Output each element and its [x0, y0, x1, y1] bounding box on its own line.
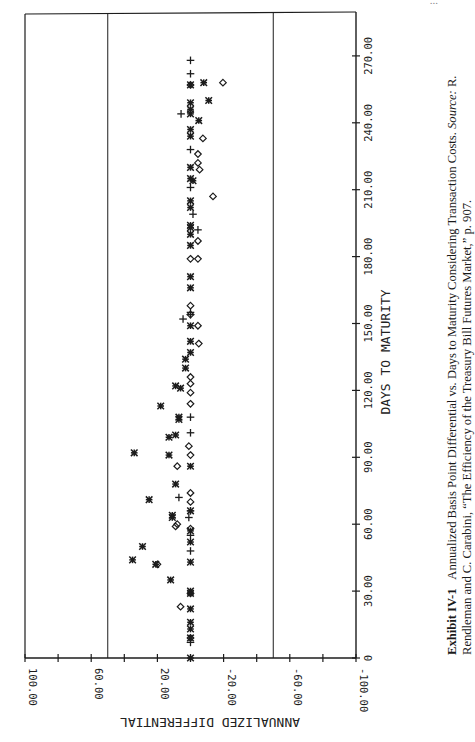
diamond-marker	[187, 400, 194, 407]
asterisk-marker	[187, 273, 194, 280]
diamond-marker	[195, 160, 202, 167]
asterisk-marker	[187, 175, 194, 182]
differential-tick-label: 60.00	[93, 668, 105, 700]
diamond-marker	[195, 256, 202, 263]
diamond-marker	[210, 193, 217, 200]
differential-tick-label: -60.00	[292, 668, 304, 706]
days-tick-label: 270.00	[362, 37, 374, 75]
asterisk-marker	[187, 626, 194, 633]
asterisk-marker	[139, 543, 146, 550]
asterisk-marker	[157, 403, 164, 410]
asterisk-marker	[182, 356, 189, 363]
plus-marker	[185, 514, 193, 522]
plus-marker	[189, 210, 197, 218]
plus-marker	[187, 429, 195, 437]
asterisk-marker	[187, 198, 194, 205]
days-tick-label: 120.00	[362, 371, 374, 409]
asterisk-marker	[187, 99, 194, 106]
asterisk-marker	[187, 126, 194, 133]
asterisk-marker	[187, 164, 194, 171]
diamond-marker	[195, 322, 202, 329]
asterisk-marker	[166, 452, 173, 459]
asterisk-marker	[187, 82, 194, 89]
diamond-marker	[200, 135, 207, 142]
diamond-marker	[187, 452, 194, 459]
asterisk-marker	[187, 559, 194, 566]
diamond-marker	[186, 443, 193, 450]
asterisk-marker	[166, 434, 173, 441]
days-tick-label: 30.00	[362, 575, 374, 607]
asterisk-marker	[187, 204, 194, 211]
asterisk-marker	[187, 349, 194, 356]
plus-marker	[175, 494, 183, 502]
plus-marker	[179, 315, 187, 323]
asterisk-marker	[167, 577, 174, 584]
asterisk-marker	[205, 97, 212, 104]
asterisk-marker	[200, 79, 207, 86]
asterisk-marker	[187, 322, 194, 329]
days-tick-label: 0	[362, 655, 374, 661]
asterisk-marker	[195, 117, 202, 124]
asterisk-marker	[187, 242, 194, 249]
plus-marker	[187, 146, 195, 154]
asterisk-marker	[187, 285, 194, 292]
plus-marker	[187, 70, 195, 78]
diamond-marker	[196, 166, 203, 173]
differential-axis: 100.0060.0020.00-20.00-60.00-100.00	[25, 654, 370, 712]
asterisk-marker	[131, 450, 138, 457]
frame-top	[25, 12, 356, 14]
asterisk-marker	[187, 231, 194, 238]
asterisk-marker	[187, 222, 194, 229]
diamond-marker	[187, 302, 194, 309]
diamond-marker	[195, 151, 202, 158]
asterisk-marker	[187, 655, 194, 662]
asterisk-marker	[187, 619, 194, 626]
x-axis-label: DAYS TO MATURITY	[378, 289, 393, 414]
data-points	[129, 57, 226, 662]
days-tick-label: 180.00	[362, 238, 374, 276]
diamond-marker	[195, 340, 202, 347]
diamond-marker	[187, 380, 194, 387]
plus-marker	[194, 226, 202, 234]
asterisk-marker	[172, 383, 179, 390]
diamond-marker	[187, 499, 194, 506]
differential-tick-label: 20.00	[159, 668, 171, 700]
diamond-marker	[187, 374, 194, 381]
y-axis-label: ANNUALIZED DIFFERENTIAL	[120, 715, 300, 730]
series-diamond	[154, 79, 226, 641]
caption-source-label: Source:	[445, 90, 459, 129]
diamond-marker	[220, 79, 227, 86]
asterisk-marker	[169, 514, 176, 521]
plus-marker	[187, 184, 195, 192]
asterisk-marker	[187, 463, 194, 470]
asterisk-marker	[187, 338, 194, 345]
diamond-marker	[187, 256, 194, 263]
asterisk-marker	[146, 496, 153, 503]
asterisk-marker	[176, 414, 183, 421]
differential-tick-label: -100.00	[358, 668, 370, 712]
asterisk-marker	[182, 365, 189, 372]
days-tick-label: 150.00	[362, 305, 374, 343]
days-tick-label: 210.00	[362, 171, 374, 209]
plus-marker	[187, 413, 195, 421]
differential-tick-label: -20.00	[226, 668, 238, 706]
days-tick-label: 240.00	[362, 104, 374, 142]
plus-marker	[177, 110, 185, 118]
diamond-marker	[177, 603, 184, 610]
asterisk-marker	[129, 557, 136, 564]
caption-exhibit-label: Exhibit IV-1	[445, 588, 459, 655]
asterisk-marker	[172, 432, 179, 439]
diamond-marker	[174, 463, 181, 470]
asterisk-marker	[187, 106, 194, 113]
plus-marker	[187, 57, 195, 65]
plus-marker	[187, 547, 195, 555]
caption-text: Annualized Basis Point Differential vs. …	[445, 129, 459, 580]
figure-caption: Exhibit IV-1 Annualized Basis Point Diff…	[445, 35, 475, 655]
asterisk-marker	[187, 133, 194, 140]
differential-tick-label: 100.00	[27, 668, 39, 706]
asterisk-marker	[187, 539, 194, 546]
diamond-marker	[187, 490, 194, 497]
asterisk-marker	[187, 588, 194, 595]
diamond-marker	[195, 238, 202, 245]
